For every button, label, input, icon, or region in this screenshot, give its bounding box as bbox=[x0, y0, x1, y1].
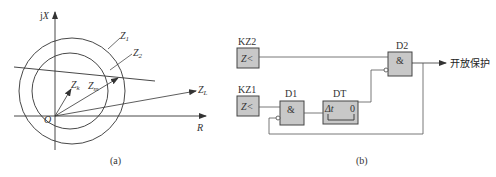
kz1-symbol: Z< bbox=[241, 101, 253, 112]
d1-inverter bbox=[276, 116, 280, 120]
d2-symbol: & bbox=[396, 55, 404, 66]
d1-name: D1 bbox=[285, 88, 297, 99]
impedance-plane-diagram: jX R O Z1 Z2 Zk Zm ZL (a) bbox=[14, 10, 208, 167]
caption-a: (a) bbox=[110, 155, 121, 167]
d2-inverter bbox=[384, 68, 388, 72]
output-label: 开放保护 bbox=[450, 57, 490, 69]
dt-name: DT bbox=[333, 88, 346, 99]
z1-leader bbox=[108, 38, 120, 49]
y-axis-label: jX bbox=[39, 10, 50, 21]
z1-label: Z1 bbox=[120, 30, 129, 43]
kz2-symbol: Z< bbox=[241, 53, 253, 64]
z2-leader bbox=[110, 54, 132, 70]
zl-label: ZL bbox=[198, 84, 208, 97]
kz2-name: KZ2 bbox=[238, 36, 256, 47]
d2-name: D2 bbox=[396, 40, 408, 51]
vector-zk bbox=[55, 89, 71, 116]
z2-label: Z2 bbox=[133, 47, 143, 60]
kz1-name: KZ1 bbox=[238, 84, 256, 95]
zm-label: Zm bbox=[88, 80, 99, 93]
reactance-line bbox=[14, 67, 155, 81]
logic-diagram: KZ2 Z< KZ1 Z< D1 & DT Δt 0 D2 & 开放保护 (b) bbox=[237, 36, 490, 167]
circle-z1 bbox=[19, 38, 125, 144]
x-axis-label: R bbox=[196, 122, 203, 133]
figure-canvas: jX R O Z1 Z2 Zk Zm ZL (a) KZ2 Z< KZ1 Z< bbox=[0, 0, 496, 177]
caption-b: (b) bbox=[356, 155, 368, 167]
zk-label: Zk bbox=[71, 79, 81, 92]
dt-symbol-right: 0 bbox=[350, 103, 355, 114]
d1-symbol: & bbox=[287, 104, 295, 115]
wire-dt-d2 bbox=[358, 70, 384, 102]
dt-symbol-left: Δt bbox=[324, 103, 334, 114]
